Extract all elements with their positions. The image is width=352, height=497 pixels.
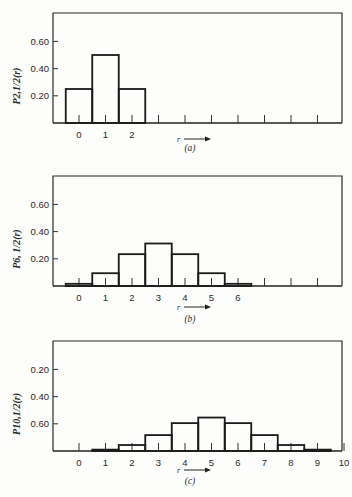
y-tick-label: 0.60 (31, 199, 50, 210)
x-tick-label: 2 (129, 292, 134, 303)
x-tick-label: 1 (103, 129, 108, 140)
arrow-head-icon (205, 468, 211, 473)
x-tick-label: 5 (209, 457, 214, 468)
histogram-bar (304, 450, 331, 451)
x-axis-variable-label: r (177, 466, 181, 475)
chart-panel-a: 0.200.400.60012P2,1/2(r)r(a) (11, 13, 342, 154)
y-tick-label: 0.20 (31, 253, 50, 264)
y-axis-title: P6, 1/2(r) (11, 229, 23, 268)
x-tick-label: 6 (235, 457, 240, 468)
y-tick-label: 0.40 (31, 226, 50, 237)
x-axis-variable-label: r (177, 303, 181, 312)
x-tick-label: 2 (129, 129, 134, 140)
x-tick-label: 9 (315, 457, 320, 468)
arrow-head-icon (205, 305, 211, 310)
x-tick-label: 3 (156, 457, 161, 468)
x-tick-label: 7 (262, 457, 267, 468)
x-tick-label: 6 (235, 292, 240, 303)
y-tick-label: 0.40 (31, 63, 50, 74)
x-tick-label: 4 (182, 292, 187, 303)
x-tick-label: 3 (156, 292, 161, 303)
x-tick-label: 1 (103, 457, 108, 468)
x-tick-label: 1 (103, 292, 108, 303)
chart-caption: (b) (184, 314, 195, 325)
x-tick-label: 5 (209, 292, 214, 303)
x-tick-label: 10 (339, 457, 350, 468)
chart-frame (53, 13, 342, 123)
y-tick-label: 0.20 (31, 364, 50, 375)
histogram-bar (92, 55, 119, 123)
y-tick-label: 0.20 (31, 90, 50, 101)
y-tick-label: 0.60 (31, 36, 50, 47)
histogram-bar (92, 450, 119, 451)
y-axis-title: P2,1/2(r) (11, 68, 23, 105)
x-tick-label: 0 (76, 457, 81, 468)
x-axis-variable-label: r (177, 135, 181, 144)
binomial-distribution-figure: 0.200.400.60012P2,1/2(r)r(a)0.200.400.60… (0, 0, 352, 497)
y-axis-title: P10,1/2(r) (11, 393, 23, 435)
chart-panel-c: 0.200.400.60012345678910P10,1/2(r)r(c) (11, 341, 349, 487)
x-tick-label: 8 (288, 457, 293, 468)
chart-panel-b: 0.200.400.600123456P6, 1/2(r)r(b) (11, 176, 342, 325)
y-tick-label: 0.40 (31, 391, 50, 402)
y-tick-label: 0.60 (31, 418, 50, 429)
chart-caption: (c) (185, 476, 196, 487)
x-tick-label: 4 (182, 457, 187, 468)
x-tick-label: 0 (76, 292, 81, 303)
x-tick-label: 2 (129, 457, 134, 468)
arrow-head-icon (205, 137, 211, 142)
x-tick-label: 0 (76, 129, 81, 140)
chart-caption: (a) (184, 143, 195, 154)
